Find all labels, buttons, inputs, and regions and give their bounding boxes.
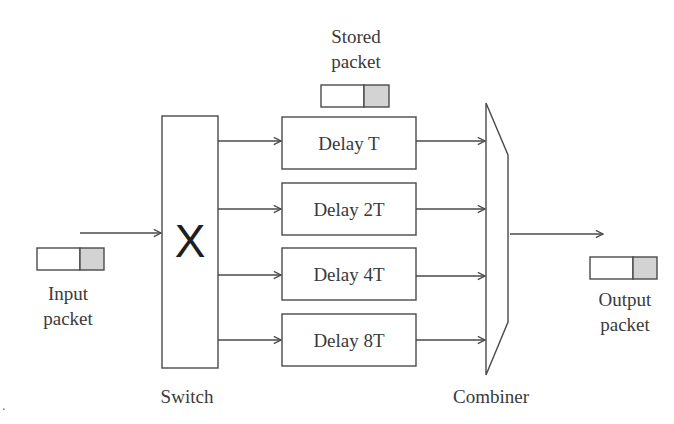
input-packet-header bbox=[80, 248, 104, 270]
output-packet-label-line2: packet bbox=[600, 314, 650, 335]
stray-mark: . bbox=[2, 398, 6, 413]
optical-delay-line-buffer-diagram: Input packet X Switch Stored packet Dela… bbox=[0, 0, 674, 424]
input-packet-label-line2: packet bbox=[43, 308, 93, 329]
output-packet bbox=[590, 257, 657, 279]
delay-label: Delay 8T bbox=[313, 330, 385, 351]
input-packet-label-line1: Input bbox=[48, 283, 89, 304]
delay-line-8t: Delay 8T bbox=[282, 314, 416, 366]
delay-label: Delay 2T bbox=[313, 199, 385, 220]
stored-packet-header bbox=[364, 85, 389, 107]
combiner-label: Combiner bbox=[453, 386, 530, 407]
stored-packet-label-line1: Stored bbox=[331, 26, 381, 47]
delay-line-t: Delay T bbox=[282, 117, 416, 169]
combiner-shape bbox=[486, 103, 508, 375]
delay-label: Delay 4T bbox=[313, 264, 385, 285]
input-packet-payload bbox=[37, 248, 80, 270]
stored-packet bbox=[321, 85, 389, 107]
stored-packet-payload bbox=[321, 85, 364, 107]
switch-label: Switch bbox=[161, 386, 214, 407]
output-packet-label-line1: Output bbox=[599, 289, 653, 310]
stored-packet-label-line2: packet bbox=[331, 51, 381, 72]
delay-line-4t: Delay 4T bbox=[282, 248, 416, 300]
output-packet-payload bbox=[590, 257, 633, 279]
switch-cross-icon: X bbox=[175, 215, 206, 267]
delay-label: Delay T bbox=[318, 133, 380, 154]
output-packet-header bbox=[633, 257, 657, 279]
input-packet bbox=[37, 248, 104, 270]
delay-line-2t: Delay 2T bbox=[282, 183, 416, 235]
